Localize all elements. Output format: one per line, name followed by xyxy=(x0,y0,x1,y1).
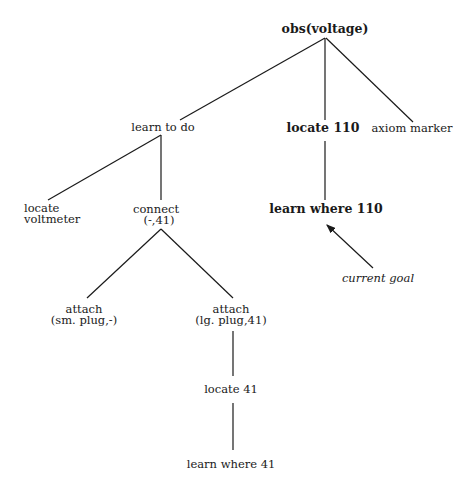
node-attach-lg-plug: attach (lg. plug,41) xyxy=(195,304,266,326)
node-learn-where-110: learn where 110 xyxy=(269,203,383,214)
edge-connect-attach-lg xyxy=(161,229,233,298)
edge-root-axiom-marker xyxy=(326,38,413,122)
node-locate-41: locate 41 xyxy=(204,384,258,395)
goal-tree-diagram: obs(voltage) learn to do locate 110 axio… xyxy=(0,0,469,487)
node-locate-voltmeter-line2: voltmeter xyxy=(24,214,80,225)
edge-connect-attach-sm xyxy=(87,229,161,298)
node-learn-to-do: learn to do xyxy=(131,122,194,133)
node-axiom-marker: axiom marker xyxy=(371,123,452,134)
node-locate-voltmeter: locate voltmeter xyxy=(24,203,80,225)
annotation-current-goal: current goal xyxy=(342,273,414,284)
node-locate-110: locate 110 xyxy=(287,122,360,133)
edge-root-learn-to-do xyxy=(180,38,325,120)
node-connect-line2: (-,41) xyxy=(133,215,179,226)
edge-learn-to-do-locate-voltmeter xyxy=(48,135,161,200)
node-learn-where-41: learn where 41 xyxy=(187,459,276,470)
node-attach-sm-line2: (sm. plug,-) xyxy=(51,315,117,326)
node-obs-voltage: obs(voltage) xyxy=(282,23,369,34)
tree-edges xyxy=(0,0,469,487)
node-attach-lg-line2: (lg. plug,41) xyxy=(195,315,266,326)
current-goal-arrow xyxy=(327,225,373,268)
node-attach-sm-plug: attach (sm. plug,-) xyxy=(51,304,117,326)
node-connect: connect (-,41) xyxy=(133,204,179,226)
